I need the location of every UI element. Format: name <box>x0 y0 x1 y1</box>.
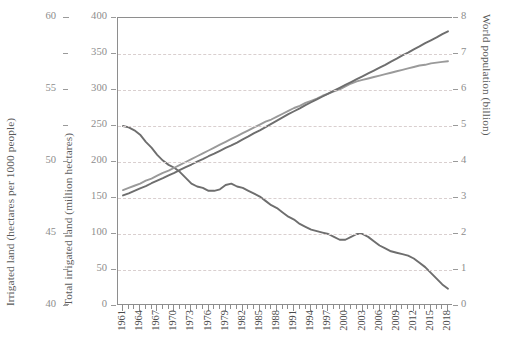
x-tick <box>356 305 357 309</box>
y-tick-right <box>453 197 458 198</box>
y-axis-inner-left: 050100150200250300350400 <box>85 17 117 305</box>
y-tick-label-outer-left: 50 <box>30 155 56 166</box>
y-tick-right <box>453 89 458 90</box>
x-tick <box>424 305 425 309</box>
x-tick <box>305 305 306 309</box>
y-tick-right <box>453 269 458 270</box>
x-tick <box>265 305 266 309</box>
plot-area <box>117 17 452 305</box>
y-tick-label-right: 0 <box>461 299 483 310</box>
y-axis-title-outer-left: Irrigated land (hectares per 1000 people… <box>4 14 16 306</box>
y-tick-label-outer-left: 55 <box>30 83 56 94</box>
y-tick-inner-left <box>111 125 116 126</box>
y-tick-outer-left <box>63 197 68 198</box>
y-tick-label-inner-left: 50 <box>79 263 107 274</box>
y-tick-label-inner-left: 0 <box>79 299 107 310</box>
y-tick-label-right: 5 <box>461 119 483 130</box>
x-tick <box>145 305 146 309</box>
x-tick <box>373 305 374 309</box>
gridline <box>118 54 452 55</box>
gridline <box>118 270 452 271</box>
x-tick-label: 2006 <box>374 310 384 331</box>
x-tick-label: 2000 <box>339 310 349 331</box>
y-tick-inner-left <box>111 197 116 198</box>
x-tick <box>441 305 442 309</box>
x-tick <box>185 305 186 309</box>
y-tick-outer-left <box>63 53 68 54</box>
y-tick-inner-left <box>111 305 116 306</box>
x-tick <box>168 305 169 309</box>
x-tick <box>247 305 248 309</box>
y-tick-right <box>453 233 458 234</box>
x-tick <box>179 305 180 309</box>
y-tick-inner-left <box>111 53 116 54</box>
x-tick-label: 2003 <box>357 310 367 331</box>
y-tick-right <box>453 305 458 306</box>
y-tick-label-right: 3 <box>461 191 483 202</box>
y-tick-label-inner-left: 300 <box>79 83 107 94</box>
x-tick <box>333 305 334 309</box>
x-tick <box>236 305 237 309</box>
x-tick-label: 1982 <box>237 310 247 331</box>
x-tick <box>436 305 437 309</box>
x-tick <box>339 305 340 309</box>
y-tick-right <box>453 161 458 162</box>
x-tick <box>230 305 231 309</box>
x-tick <box>401 305 402 309</box>
x-tick <box>219 305 220 309</box>
x-axis-labels: 1961196419671970197319761979198219851988… <box>0 310 509 357</box>
x-tick <box>419 305 420 309</box>
y-tick-label-right: 7 <box>461 47 483 58</box>
x-tick <box>407 305 408 309</box>
x-tick <box>350 305 351 309</box>
y-tick-label-right: 4 <box>461 155 483 166</box>
x-tick <box>128 305 129 309</box>
series-line <box>123 31 448 195</box>
x-tick <box>316 305 317 309</box>
y-tick-label-right: 6 <box>461 83 483 94</box>
y-tick-label-outer-left: 40 <box>30 299 56 310</box>
x-tick <box>151 305 152 309</box>
y-tick-label-outer-left: 45 <box>30 227 56 238</box>
chart-container: Irrigated land (hectares per 1000 people… <box>0 0 509 357</box>
y-tick-label-inner-left: 200 <box>79 155 107 166</box>
x-tick <box>367 305 368 309</box>
x-tick-label: 1985 <box>254 310 264 331</box>
y-tick-label-inner-left: 150 <box>79 191 107 202</box>
x-tick-label: 1964 <box>134 310 144 331</box>
x-tick-label: 1973 <box>185 310 195 331</box>
y-tick-label-inner-left: 350 <box>79 47 107 58</box>
x-tick-label: 1961 <box>117 310 127 331</box>
x-tick <box>270 305 271 309</box>
x-tick-label: 2018 <box>442 310 452 331</box>
y-tick-label-outer-left: 60 <box>30 11 56 22</box>
x-tick <box>253 305 254 309</box>
y-tick-inner-left <box>111 161 116 162</box>
gridline <box>118 162 452 163</box>
x-tick-label: 2015 <box>425 310 435 331</box>
y-tick-label-right: 2 <box>461 227 483 238</box>
y-tick-inner-left <box>111 89 116 90</box>
y-tick-right <box>453 125 458 126</box>
gridline <box>118 90 452 91</box>
series-line <box>123 126 448 289</box>
x-tick-label: 1970 <box>168 310 178 331</box>
y-tick-inner-left <box>111 233 116 234</box>
x-tick-label: 1967 <box>151 310 161 331</box>
x-tick-label: 2012 <box>408 310 418 331</box>
x-tick <box>196 305 197 309</box>
y-tick-label-inner-left: 100 <box>79 227 107 238</box>
x-tick <box>287 305 288 309</box>
x-tick-label: 1991 <box>288 310 298 331</box>
x-tick <box>282 305 283 309</box>
y-tick-inner-left <box>111 269 116 270</box>
x-tick <box>213 305 214 309</box>
y-tick-right <box>453 53 458 54</box>
x-tick-label: 1979 <box>220 310 230 331</box>
x-tick-label: 2009 <box>391 310 401 331</box>
y-axis-right: 012345678 <box>452 17 482 305</box>
x-tick-label: 1988 <box>271 310 281 331</box>
y-tick-label-inner-left: 400 <box>79 11 107 22</box>
gridline <box>118 126 452 127</box>
y-tick-outer-left <box>63 233 68 234</box>
